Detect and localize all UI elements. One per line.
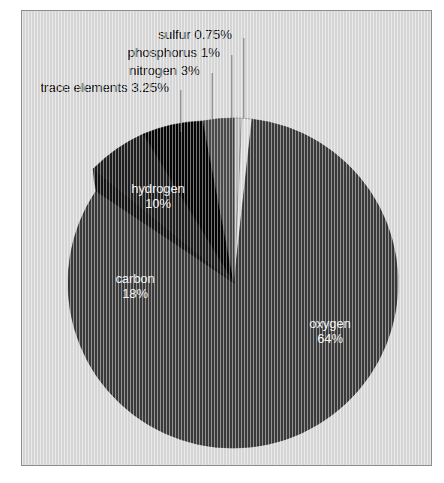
chart-plot-area: sulfur 0.75% phosphorus 1% nitrogen 3% t… [21,10,432,466]
callout-label-trace-elements: trace elements 3.25% [40,80,169,95]
callout-label-phosphorus: phosphorus 1% [127,45,220,60]
slice-label-carbon: carbon 18% [90,271,180,302]
slice-label-carbon-name: carbon [115,271,154,286]
slice-label-hydrogen-name: hydrogen [131,181,184,196]
callout-label-nitrogen: nitrogen 3% [129,63,200,78]
slice-label-hydrogen-pct: 10% [106,196,210,211]
callout-label-sulfur: sulfur 0.75% [158,27,232,42]
slice-label-carbon-pct: 18% [90,286,180,301]
slice-label-hydrogen: hydrogen 10% [106,181,210,212]
slice-label-oxygen: oxygen 64% [285,316,375,347]
slice-label-oxygen-name: oxygen [309,316,350,331]
slice-label-oxygen-pct: 64% [285,331,375,346]
pie-chart-figure: sulfur 0.75% phosphorus 1% nitrogen 3% t… [0,0,444,483]
